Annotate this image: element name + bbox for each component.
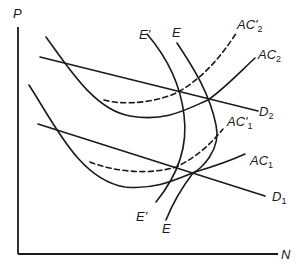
ac2-curve [46, 37, 255, 118]
n-axis-label: N [281, 247, 291, 262]
d2-label: D2 [259, 104, 273, 121]
d1-label: D1 [272, 189, 286, 206]
e-label-bottom: E [162, 221, 171, 236]
ac1-prime-label: AC'1 [226, 114, 253, 131]
ac2-prime-label: AC'2 [236, 17, 263, 34]
ac1-label: AC1 [249, 153, 273, 170]
e-label-top: E [172, 25, 181, 40]
p-axis-label: P [13, 6, 22, 21]
d2-line [40, 57, 258, 111]
diagram: P N D2 D1 AC2 AC'2 AC1 AC'1 E E E' E' [0, 0, 306, 271]
e-curve [166, 43, 217, 220]
e-prime-label-top: E' [139, 27, 151, 42]
ac2-label: AC2 [257, 47, 281, 64]
diagram-canvas: P N D2 D1 AC2 AC'2 AC1 AC'1 E E E' E' [0, 0, 306, 271]
e-prime-label-bottom: E' [136, 209, 148, 224]
